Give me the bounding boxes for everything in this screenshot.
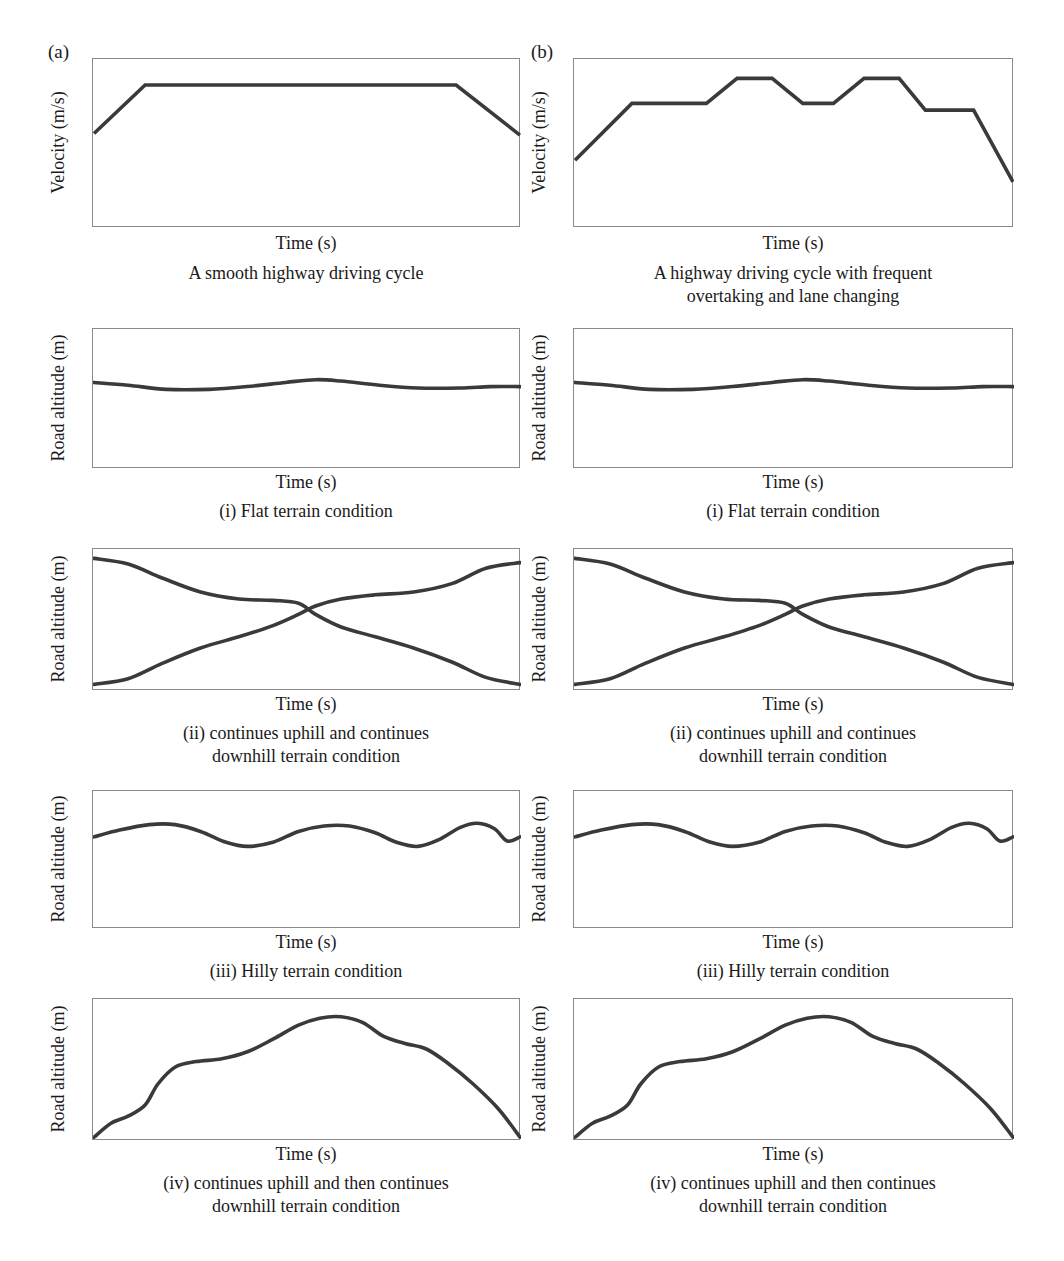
- caption-line: (ii) continues uphill and continues: [543, 722, 1043, 745]
- caption-b-velocity: A highway driving cycle with frequentove…: [543, 262, 1043, 307]
- caption-a-hilly: (iii) Hilly terrain condition: [62, 960, 550, 983]
- plot-box-a-hilly: [92, 790, 520, 928]
- curve-a-hilly-a-hilly: [94, 823, 520, 846]
- curve-b-flat-b-flat: [575, 380, 1013, 390]
- plot-box-b-flat: [573, 328, 1013, 468]
- plot-box-b-mountain: [573, 998, 1013, 1140]
- y-axis-label-a-hilly: Road altitude (m): [48, 790, 69, 928]
- curve-a-mountain-a-mountain: [94, 1017, 520, 1138]
- plot-canvas-a-flat: [93, 329, 521, 469]
- caption-line: A highway driving cycle with frequent: [543, 262, 1043, 285]
- caption-line: downhill terrain condition: [62, 745, 550, 768]
- x-axis-label-b-velocity: Time (s): [573, 233, 1013, 254]
- caption-a-velocity: A smooth highway driving cycle: [62, 262, 550, 285]
- caption-line: (iv) continues uphill and then continues: [62, 1172, 550, 1195]
- plot-canvas-b-uphill-downhill: [574, 549, 1014, 691]
- curve-a-flat-a-flat: [94, 380, 520, 390]
- plot-canvas-a-uphill-downhill: [93, 549, 521, 691]
- curve-b-hilly-b-hilly: [575, 823, 1013, 846]
- y-axis-label-a-cross: Road altitude (m): [48, 548, 69, 690]
- plot-canvas-b-mountain: [574, 999, 1014, 1141]
- plot-box-a-velocity: [92, 58, 520, 227]
- caption-a-mountain: (iv) continues uphill and then continues…: [62, 1172, 550, 1217]
- caption-b-hilly: (iii) Hilly terrain condition: [543, 960, 1043, 983]
- caption-b-mountain: (iv) continues uphill and then continues…: [543, 1172, 1043, 1217]
- caption-line: overtaking and lane changing: [543, 285, 1043, 308]
- x-axis-label-a-cross: Time (s): [92, 694, 520, 715]
- plot-box-b-cross: [573, 548, 1013, 690]
- plot-box-a-flat: [92, 328, 520, 468]
- caption-line: (iii) Hilly terrain condition: [543, 960, 1043, 983]
- curve-a-velocity-a-velocity: [94, 85, 520, 135]
- plot-canvas-a-mountain: [93, 999, 521, 1141]
- caption-a-cross: (ii) continues uphill and continuesdownh…: [62, 722, 550, 767]
- caption-line: A smooth highway driving cycle: [62, 262, 550, 285]
- curve-b-velocity-b-velocity: [575, 78, 1013, 182]
- y-axis-label-b-velocity: Velocity (m/s): [529, 58, 550, 227]
- x-axis-label-a-hilly: Time (s): [92, 932, 520, 953]
- y-axis-label-b-cross: Road altitude (m): [529, 548, 550, 690]
- y-axis-label-b-hilly: Road altitude (m): [529, 790, 550, 928]
- plot-canvas-a-velocity: [93, 59, 521, 228]
- caption-line: downhill terrain condition: [543, 745, 1043, 768]
- y-axis-label-b-mountain: Road altitude (m): [529, 998, 550, 1140]
- x-axis-label-a-mountain: Time (s): [92, 1144, 520, 1165]
- plot-box-a-mountain: [92, 998, 520, 1140]
- x-axis-label-b-cross: Time (s): [573, 694, 1013, 715]
- y-axis-label-a-mountain: Road altitude (m): [48, 998, 69, 1140]
- figure-root: (a)Velocity (m/s)Time (s)A smooth highwa…: [0, 0, 1064, 1261]
- y-axis-label-a-velocity: Velocity (m/s): [48, 58, 69, 227]
- y-axis-label-a-flat: Road altitude (m): [48, 328, 69, 468]
- plot-canvas-b-velocity: [574, 59, 1014, 228]
- curve-b-uphill-downhill-uphill: [575, 563, 1013, 685]
- caption-line: downhill terrain condition: [543, 1195, 1043, 1218]
- caption-line: (iv) continues uphill and then continues: [543, 1172, 1043, 1195]
- plot-canvas-b-hilly: [574, 791, 1014, 929]
- x-axis-label-a-flat: Time (s): [92, 472, 520, 493]
- plot-box-b-velocity: [573, 58, 1013, 227]
- caption-line: (i) Flat terrain condition: [543, 500, 1043, 523]
- plot-canvas-b-flat: [574, 329, 1014, 469]
- curve-b-mountain-b-mountain: [575, 1017, 1013, 1138]
- x-axis-label-b-mountain: Time (s): [573, 1144, 1013, 1165]
- x-axis-label-a-velocity: Time (s): [92, 233, 520, 254]
- x-axis-label-b-hilly: Time (s): [573, 932, 1013, 953]
- plot-box-a-cross: [92, 548, 520, 690]
- plot-canvas-a-hilly: [93, 791, 521, 929]
- plot-box-b-hilly: [573, 790, 1013, 928]
- curve-a-uphill-downhill-uphill: [94, 563, 520, 685]
- caption-line: downhill terrain condition: [62, 1195, 550, 1218]
- y-axis-label-b-flat: Road altitude (m): [529, 328, 550, 468]
- x-axis-label-b-flat: Time (s): [573, 472, 1013, 493]
- caption-a-flat: (i) Flat terrain condition: [62, 500, 550, 523]
- caption-line: (iii) Hilly terrain condition: [62, 960, 550, 983]
- caption-line: (i) Flat terrain condition: [62, 500, 550, 523]
- caption-b-cross: (ii) continues uphill and continuesdownh…: [543, 722, 1043, 767]
- caption-line: (ii) continues uphill and continues: [62, 722, 550, 745]
- caption-b-flat: (i) Flat terrain condition: [543, 500, 1043, 523]
